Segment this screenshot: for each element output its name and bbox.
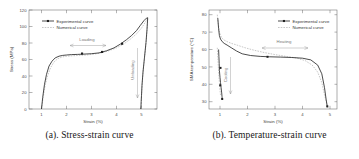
- x-tick-label-5: 5: [329, 112, 332, 117]
- y-tick-label-120: 120: [20, 8, 28, 13]
- y-tick-label-70: 70: [202, 30, 207, 35]
- x-tick-label-1: 1: [40, 112, 43, 117]
- legend-label-experimental: Experimental curve: [293, 19, 330, 24]
- y-tick-label-60: 60: [22, 57, 27, 62]
- panel-temperature-strain: 30 40 50 60 70 80: [180, 0, 359, 159]
- y-tick-label-40: 40: [22, 74, 27, 79]
- caption-panel-b: (b). Temperature-strain curve: [180, 130, 359, 140]
- y-tick-label-80: 80: [22, 41, 27, 46]
- plot-area-stress-strain: 0 20 40 60 80 100 120: [0, 2, 179, 128]
- y-tick-label-0: 0: [24, 107, 27, 112]
- x-axis-title: Strain (%): [263, 119, 283, 124]
- y-axis-title: SMA temperature (°C): [189, 37, 194, 81]
- x-tick-label-4: 4: [115, 112, 118, 117]
- x-tick-label-3: 3: [274, 112, 277, 117]
- y-tick-label-80: 80: [202, 12, 207, 17]
- caption-panel-a: (a). Stress-strain curve: [0, 130, 179, 140]
- legend-label-numerical: Numerical curve: [57, 25, 89, 30]
- y-tick-label-20: 20: [22, 90, 27, 95]
- annotation-loading-label: Loading: [79, 37, 95, 42]
- plot-area-temperature-strain: 30 40 50 60 70 80: [180, 2, 359, 128]
- y-tick-label-40: 40: [202, 82, 207, 87]
- x-tick-label-4: 4: [301, 112, 304, 117]
- panel-stress-strain: 0 20 40 60 80 100 120: [0, 0, 179, 159]
- axes-frame: [29, 10, 157, 109]
- y-tick-label-50: 50: [202, 65, 207, 70]
- x-tick-label-2: 2: [246, 112, 249, 117]
- legend-marker-experimental: [283, 20, 285, 22]
- y-axis-title: Stress (MPa): [9, 46, 14, 72]
- annotation-unloading-label: Unloading: [130, 60, 135, 80]
- legend-label-experimental: Experimental curve: [57, 19, 94, 24]
- x-tick-label-1: 1: [219, 112, 222, 117]
- y-tick-label-30: 30: [202, 99, 207, 104]
- annotation-cooling-label: Cooling: [223, 67, 228, 82]
- y-tick-label-100: 100: [20, 24, 28, 29]
- figure-container: 0 20 40 60 80 100 120: [0, 0, 359, 159]
- legend-marker-experimental: [47, 20, 49, 22]
- x-tick-label-3: 3: [90, 112, 93, 117]
- x-tick-label-5: 5: [140, 112, 143, 117]
- y-tick-label-60: 60: [202, 47, 207, 52]
- legend-label-numerical: Numerical curve: [293, 25, 325, 30]
- x-tick-label-2: 2: [65, 112, 68, 117]
- x-axis-title: Strain (%): [83, 119, 103, 124]
- annotation-heating-label: Heating: [277, 39, 292, 44]
